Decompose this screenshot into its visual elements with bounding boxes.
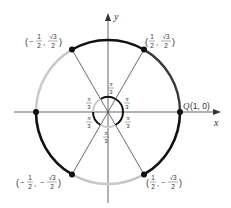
svg-text:−: −	[20, 179, 24, 186]
svg-text:(: (	[146, 178, 149, 188]
svg-text:2: 2	[171, 183, 175, 190]
svg-text:−: −	[40, 179, 44, 186]
svg-text:,: ,	[34, 179, 36, 188]
svg-text:2: 2	[164, 42, 168, 49]
svg-text:1: 1	[37, 33, 41, 40]
svg-text:−: −	[161, 179, 165, 186]
svg-text:√3: √3	[169, 174, 177, 181]
inner-arc-300-360	[116, 112, 124, 125]
inner-arc-0-60	[116, 99, 124, 112]
svg-text:,: ,	[43, 38, 45, 47]
svg-text:−: −	[29, 38, 33, 45]
svg-text:π: π	[87, 115, 91, 121]
point-300	[141, 171, 147, 177]
svg-text:3: 3	[126, 123, 130, 129]
angle-label-lower-left: π 3	[86, 115, 92, 129]
point-60	[141, 47, 147, 53]
coord-label-120: ( − 1 2 , √3 2 )	[25, 33, 62, 49]
point-180	[33, 109, 39, 115]
svg-text:√3: √3	[48, 174, 56, 181]
arc-120-180	[36, 50, 72, 112]
svg-text:(: (	[145, 37, 148, 47]
svg-text:3: 3	[125, 104, 129, 110]
svg-text:2: 2	[50, 183, 54, 190]
point-240	[69, 171, 75, 177]
inner-arc-120-180	[93, 99, 101, 112]
svg-text:3: 3	[87, 104, 91, 110]
svg-text:): )	[58, 178, 61, 188]
svg-text:2: 2	[37, 42, 41, 49]
svg-text:(: (	[16, 178, 19, 188]
unit-circle-diagram: y x Q (1, 0) π 3 π 3 π 3 π 3 π 3	[0, 0, 231, 208]
angle-label-upper-right: π 3	[124, 96, 130, 110]
x-axis-label: x	[213, 117, 219, 128]
svg-text:,: ,	[157, 179, 159, 188]
svg-text:2: 2	[51, 42, 55, 49]
angle-label-top: π 3	[108, 81, 114, 95]
svg-text:2: 2	[151, 183, 155, 190]
svg-text:π: π	[87, 96, 91, 102]
arc-300-360	[144, 112, 180, 174]
diagram-canvas: y x Q (1, 0) π 3 π 3 π 3 π 3 π 3	[0, 0, 231, 208]
y-axis-label: y	[113, 11, 119, 22]
point-q-coords: (1, 0)	[190, 101, 210, 111]
svg-text:): )	[172, 37, 175, 47]
svg-text:1: 1	[28, 174, 32, 181]
coord-label-300: ( 1 2 , − √3 2 )	[146, 174, 182, 190]
svg-text:π: π	[109, 81, 113, 87]
angle-label-lower-right: π 3	[125, 115, 131, 129]
svg-text:2: 2	[150, 42, 154, 49]
point-q-name: Q	[183, 101, 190, 111]
inner-arc-180-240	[93, 112, 101, 125]
svg-text:(: (	[25, 37, 28, 47]
angle-label-upper-left: π 3	[86, 96, 92, 110]
svg-text:2: 2	[28, 183, 32, 190]
svg-text:√3: √3	[162, 33, 170, 40]
point-120	[69, 47, 75, 53]
svg-text:): )	[179, 178, 182, 188]
y-axis-arrow-icon	[105, 13, 111, 21]
arc-180-240	[36, 112, 72, 174]
svg-text:π: π	[126, 115, 130, 121]
svg-text:3: 3	[87, 123, 91, 129]
svg-text:3: 3	[109, 89, 113, 95]
svg-text:π: π	[125, 96, 129, 102]
svg-text:1: 1	[150, 33, 154, 40]
svg-text:√3: √3	[49, 33, 57, 40]
svg-text:,: ,	[156, 38, 158, 47]
x-axis-arrow-icon	[213, 109, 221, 115]
arc-0-60	[144, 50, 180, 112]
coord-label-60: ( 1 2 , √3 2 )	[145, 33, 175, 49]
svg-text:): )	[59, 37, 62, 47]
coord-label-240: ( − 1 2 , − √3 2 )	[16, 174, 61, 190]
svg-text:1: 1	[151, 174, 155, 181]
